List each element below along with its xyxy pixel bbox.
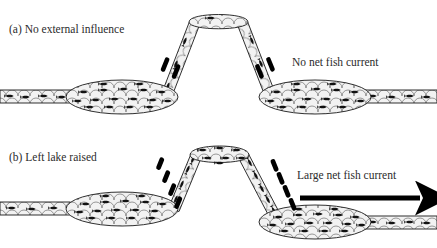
panel-b-right-lake [259, 205, 371, 239]
panel-b-left-pipe [0, 202, 70, 215]
panel-b-left-lake [66, 192, 178, 226]
panel-a-left-lake [66, 80, 178, 114]
panel-b-annotation: Large net fish current [297, 170, 396, 182]
panel-a-right-lake [259, 80, 371, 114]
panel-a-annotation: No net fish current [292, 57, 379, 69]
fish-current-diagram [0, 0, 437, 248]
panel-a-label: (a) No external influence [9, 24, 124, 36]
panel-b-label: (b) Left lake raised [9, 152, 97, 164]
panel-a-plateau [189, 15, 248, 29]
